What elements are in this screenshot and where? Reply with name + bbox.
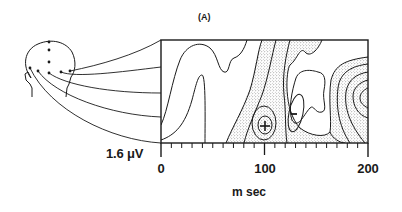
x-axis-label: m sec [232, 185, 266, 199]
head-diagram [25, 41, 75, 97]
x-axis-ticks [161, 143, 368, 157]
face-outline-icon [25, 72, 32, 97]
y-scale-label: 1.6 μV [106, 146, 143, 161]
isopotential-diagram [0, 0, 402, 212]
contour-plot [161, 40, 368, 143]
x-tick-label-0: 0 [157, 161, 164, 176]
panel-label: (A) [198, 12, 211, 22]
x-tick-label-200: 200 [357, 161, 379, 176]
electrode-leads [30, 40, 161, 143]
x-tick-label-100: 100 [254, 161, 276, 176]
